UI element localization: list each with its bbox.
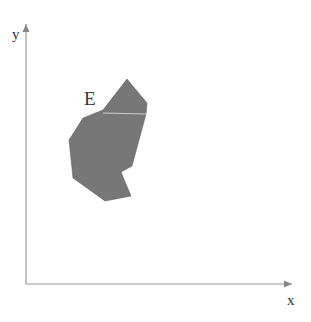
- y-axis-label: y: [12, 26, 20, 42]
- diagram-canvas: E y x: [0, 0, 311, 322]
- x-axis-label: x: [287, 292, 295, 308]
- region-label: E: [84, 88, 96, 109]
- region-e: [69, 79, 147, 201]
